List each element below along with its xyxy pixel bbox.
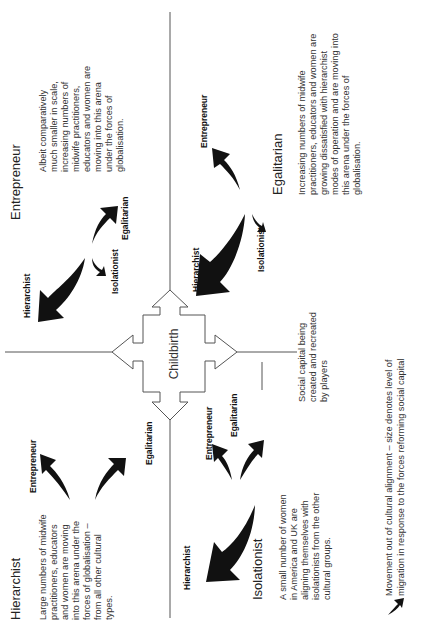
svg-text:Social capital being: Social capital being <box>297 323 307 402</box>
curved-arrow-icon <box>196 214 245 296</box>
svg-text:growing dissatisfied with hier: growing dissatisfied with hierarchist <box>319 51 329 195</box>
cultural-theory-diagram: Childbirth Entrepreneur Albeit comparati… <box>0 0 421 628</box>
curved-arrow-icon <box>92 258 106 276</box>
egalitarian-arrow-label-entrepreneur: Entrepreneur <box>199 94 209 148</box>
isolationist-arrow-label-entrepreneur: Entrepreneur <box>204 406 214 460</box>
svg-text:increasing numbers of: increasing numbers of <box>60 81 70 172</box>
curved-arrow-icon <box>95 458 126 500</box>
hierarchist-arrow-label-entrepreneur: Entrepreneur <box>28 439 38 493</box>
curved-arrow-icon <box>206 505 255 582</box>
legend-curved-arrow-icon <box>388 598 404 615</box>
entrepreneur-arrow-label-isolationist: Isolationist <box>110 249 120 294</box>
legend-text: Movement out of cultural alignment – siz… <box>384 359 406 596</box>
svg-text:practitioners, educators: practitioners, educators <box>49 524 59 620</box>
svg-text:Increasing numbers of midwife: Increasing numbers of midwife <box>297 70 307 195</box>
svg-text:by players: by players <box>319 360 329 402</box>
isolationist-arrow-label-hierarchist: Hierarchist <box>182 545 192 590</box>
svg-text:and women are moving: and women are moving <box>60 525 70 621</box>
entrepreneur-description: Albeit comparatively much smaller in sca… <box>38 66 125 172</box>
isolationist-arrow-label-egalitarian: Egalitarian <box>229 394 239 437</box>
social-capital-annotation: Social capital being created and recreat… <box>297 312 329 402</box>
egalitarian-title: Egalitarian <box>270 134 285 195</box>
curved-arrow-icon <box>212 444 232 480</box>
curved-arrow-icon <box>212 148 240 190</box>
svg-text:created and recreated: created and recreated <box>308 312 318 402</box>
svg-text:Large numbers of midwife: Large numbers of midwife <box>38 514 48 620</box>
entrepreneur-arrow-label-hierarchist: Hierarchist <box>22 273 32 318</box>
svg-text:in America and UK are: in America and UK are <box>289 508 299 600</box>
isolationist-description: A small number of women in America and U… <box>278 493 332 600</box>
curved-arrow-icon <box>240 440 264 480</box>
hierarchist-arrow-label-egalitarian: Egalitarian <box>144 422 154 465</box>
svg-text:this arena under the forces of: this arena under the forces of <box>341 75 351 195</box>
hierarchist-title: Hierarchist <box>8 557 23 620</box>
svg-text:migration in response to the f: migration in response to the forces refo… <box>396 359 406 596</box>
svg-text:under the forces of: under the forces of <box>104 95 114 172</box>
entrepreneur-title: Entrepreneur <box>8 143 23 220</box>
svg-text:modes of operation and are mov: modes of operation and are moving into <box>330 33 340 195</box>
svg-text:forces of globalisation –: forces of globalisation – <box>82 523 92 620</box>
svg-text:A small number of women: A small number of women <box>278 494 288 600</box>
svg-text:cultural groups.: cultural groups. <box>322 537 332 600</box>
isolationist-title: Isolationist <box>250 538 265 600</box>
svg-text:practitioners, educators and w: practitioners, educators and women are <box>308 34 318 195</box>
hierarchist-description: Large numbers of midwife practitioners, … <box>38 514 114 620</box>
svg-text:midwife practitioners,: midwife practitioners, <box>71 86 81 172</box>
entrepreneur-arrow-label-egalitarian: Egalitarian <box>120 197 130 240</box>
egalitarian-arrow-label-isolationist: Isolationist <box>256 227 266 272</box>
curved-arrow-icon <box>38 258 85 322</box>
curved-arrow-icon <box>40 454 70 500</box>
svg-text:globalisation.: globalisation. <box>115 118 125 172</box>
svg-text:aligning themselves with: aligning themselves with <box>300 500 310 600</box>
svg-text:isolationists from the other: isolationists from the other <box>311 493 321 600</box>
svg-text:Albeit comparatively: Albeit comparatively <box>38 89 48 172</box>
svg-text:into this arena under the: into this arena under the <box>71 521 81 620</box>
svg-text:educators and women are: educators and women are <box>82 66 92 172</box>
center-label: Childbirth <box>167 329 181 380</box>
curved-arrow-icon <box>92 206 118 244</box>
svg-text:Movement out of cultural align: Movement out of cultural alignment – siz… <box>384 359 394 596</box>
svg-text:much smaller in scale,: much smaller in scale, <box>49 81 59 172</box>
svg-text:moving into this arena: moving into this arena <box>93 81 103 172</box>
svg-text:globalisation.: globalisation. <box>352 141 362 195</box>
egalitarian-description: Increasing numbers of midwife practition… <box>297 33 362 195</box>
svg-text:from all other cultural: from all other cultural <box>93 534 103 620</box>
svg-text:types.: types. <box>104 595 114 620</box>
